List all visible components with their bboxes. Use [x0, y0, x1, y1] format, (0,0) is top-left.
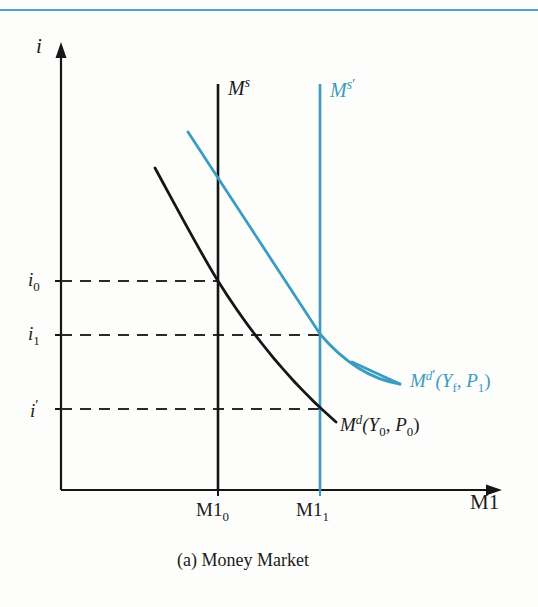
md-label-arg-end: ) — [413, 414, 419, 435]
mdp-label-main: M — [410, 370, 426, 391]
i1-sub: 1 — [33, 333, 39, 348]
money-demand-curve — [155, 168, 336, 422]
md-label-main: M — [340, 414, 356, 435]
money-supply-label: Ms — [228, 76, 250, 98]
y-tick-label-i1: i1 — [28, 324, 40, 348]
m10-main: M1 — [196, 499, 222, 520]
i0-sub: 0 — [33, 279, 39, 294]
msp-label-prime: ′ — [352, 75, 355, 92]
x-axis-label: M1 — [470, 492, 499, 513]
msp-label-main: M — [330, 79, 347, 101]
y-axis — [56, 42, 67, 490]
y-axis-label: i — [36, 36, 42, 57]
md-label-arg-mid: , P — [386, 414, 407, 435]
figure-canvas — [0, 0, 538, 607]
md-prime-leader-line — [352, 362, 400, 384]
money-demand-label: Md(Y0, P0) — [340, 414, 420, 439]
m11-main: M1 — [296, 499, 322, 520]
money-demand-prime-curve — [188, 132, 400, 384]
money-demand-prime-label: Md′(Yf, P1) — [410, 368, 491, 395]
m10-sub: 0 — [222, 509, 228, 524]
y-tick-label-iprime: i′ — [30, 398, 39, 420]
mdp-label-arg-mid: , P — [457, 370, 478, 391]
ms-label-main: M — [228, 77, 245, 99]
money-market-figure: i M1 Ms Ms′ Md(Y0, P0) Md′(Yf, P1) i0 i1… — [0, 0, 538, 607]
ms-label-sup: s — [245, 75, 250, 90]
money-supply-prime-label: Ms′ — [330, 76, 355, 100]
mdp-label-arg-end: ) — [484, 370, 490, 391]
md-label-args: (Y — [362, 414, 379, 435]
y-tick-label-i0: i0 — [28, 270, 40, 294]
x-tick-label-m11: M11 — [296, 500, 329, 524]
iprime-sub: ′ — [35, 397, 38, 413]
figure-caption: (a) Money Market — [177, 551, 309, 569]
y-axis-arrowhead — [56, 42, 67, 58]
x-axis — [61, 485, 502, 496]
mdp-label-args: (Y — [436, 370, 453, 391]
x-tick-label-m10: M10 — [196, 500, 229, 524]
m11-sub: 1 — [322, 509, 328, 524]
